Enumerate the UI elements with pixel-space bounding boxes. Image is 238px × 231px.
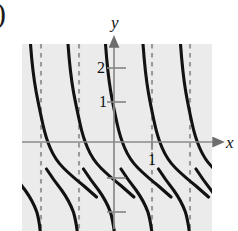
y-tick-label-1: 1	[99, 94, 107, 110]
y-tick-label-2: 2	[97, 60, 105, 76]
x-axis-label: x	[226, 134, 234, 151]
y-axis-label: y	[111, 14, 119, 31]
x-tick-label-1: 1	[148, 152, 156, 168]
figure-graph: )	[0, 0, 238, 231]
graph-canvas	[0, 0, 238, 231]
figure-enumerator: )	[0, 0, 6, 28]
